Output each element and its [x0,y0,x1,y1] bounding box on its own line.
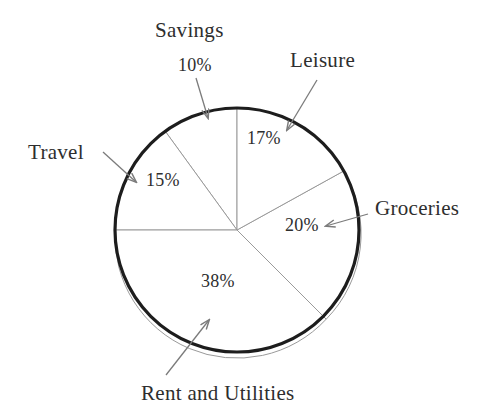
slice-value-travel: 15% [146,170,180,191]
slice-label-savings: Savings [155,18,224,43]
slice-value-savings: 10% [178,55,212,76]
leader-leisure [287,80,317,130]
slice-label-rent-and-utilities: Rent and Utilities [141,381,295,406]
slice-value-rent-and-utilities: 38% [201,271,235,292]
slice-value-leisure: 17% [247,128,281,149]
slice-label-leisure: Leisure [290,48,355,73]
slice-label-groceries: Groceries [375,196,459,221]
pie-chart: Savings 10% Leisure 17% Travel 15% Groce… [0,0,489,417]
slice-value-groceries: 20% [285,215,319,236]
slice-label-travel: Travel [28,140,84,165]
